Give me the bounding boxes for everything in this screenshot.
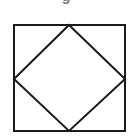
square-diamond-figure [0,0,132,139]
outer-square [14,25,125,131]
inner-diamond [14,25,125,131]
